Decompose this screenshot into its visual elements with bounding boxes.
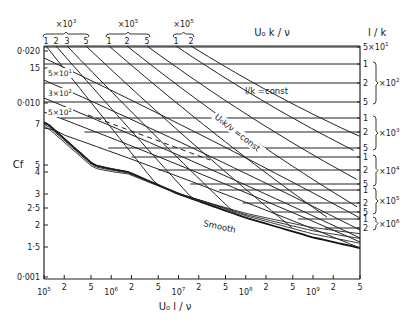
top-axis-label: 1 xyxy=(106,37,111,46)
x-tick-label: 5 xyxy=(88,283,93,292)
right-axis-label: 2 xyxy=(363,79,368,88)
top-axis-title: U₀ k / ν xyxy=(254,27,290,38)
x-tick-label: 107 xyxy=(172,286,186,297)
right-multiplier: ×102 xyxy=(379,77,399,88)
right-axis-label: 5 xyxy=(363,98,368,107)
x-tick-label: 5 xyxy=(156,283,161,292)
y-tick-label: 0·001 xyxy=(17,273,40,282)
u0k-const-curve xyxy=(127,46,357,207)
top-multiplier: ×105 xyxy=(118,18,139,29)
right-axis-title: l / k xyxy=(368,27,387,38)
top-multiplier: ×105 xyxy=(173,18,194,29)
transition-curve xyxy=(44,126,360,233)
top-axis-label: 2 xyxy=(124,37,129,46)
right-axis-label: 1 xyxy=(363,114,368,123)
transition-curve xyxy=(44,122,360,243)
x-tick-label: 2 xyxy=(62,283,67,292)
u0k-const-curve xyxy=(44,128,360,248)
right-bracket xyxy=(373,188,378,214)
y-tick-label: 0·020 xyxy=(17,47,40,56)
u0k-const-curve xyxy=(176,46,354,151)
x-tick-label: 2 xyxy=(331,283,336,292)
y-tick-label: 2 xyxy=(35,221,40,230)
right-bracket xyxy=(373,62,378,104)
u0k-const-curve xyxy=(147,46,357,179)
right-axis-label: 1 xyxy=(363,186,368,195)
right-multiplier: ×103 xyxy=(379,127,400,138)
right-axis-label: 5 xyxy=(363,144,368,153)
top-axis-label: 2 xyxy=(53,37,58,46)
top-axis-label: 3 xyxy=(64,37,69,46)
right-axis-label: 5×101 xyxy=(363,41,389,52)
right-multiplier: ×105 xyxy=(379,195,400,206)
top-axis-label: 5 xyxy=(83,37,88,46)
x-axis-title: U₀ l / ν xyxy=(159,301,192,312)
u0k-const-curve xyxy=(86,46,292,228)
right-axis-label: 2 xyxy=(363,224,368,233)
skin-friction-chart: 10525106251072510825109250·020150·010754… xyxy=(0,0,406,325)
annotation-smooth-group: Smooth xyxy=(203,218,237,235)
y-tick-label: 2·5 xyxy=(27,204,40,213)
x-tick-label: 108 xyxy=(239,286,253,297)
x-tick-label: 5 xyxy=(290,283,295,292)
annotation-smooth: Smooth xyxy=(203,218,237,235)
y-tick-label: 1·5 xyxy=(27,243,40,252)
top-axis-label: 2 xyxy=(188,37,193,46)
right-axis-label: 1 xyxy=(363,60,368,69)
right-bracket xyxy=(373,217,378,230)
x-tick-label: 109 xyxy=(306,286,320,297)
inset-label: 5×102 xyxy=(48,107,72,117)
x-tick-label: 2 xyxy=(129,283,134,292)
y-tick-label: 7 xyxy=(35,120,40,129)
right-multiplier: ×106 xyxy=(379,218,400,229)
plot-area xyxy=(44,46,360,248)
right-axis-label: 1 xyxy=(363,215,368,224)
top-axis-label: 5 xyxy=(144,37,149,46)
x-tick-label: 2 xyxy=(263,283,268,292)
right-axis-label: 2 xyxy=(363,166,368,175)
top-multiplier: ×103 xyxy=(56,18,77,29)
x-tick-label: 5 xyxy=(357,283,362,292)
right-axis-label: 2 xyxy=(363,199,368,208)
x-tick-label: 2 xyxy=(196,283,201,292)
inset-label: 3×102 xyxy=(48,88,72,98)
annotation-u0k-group: U₀k/ν =const xyxy=(211,110,266,156)
right-bracket xyxy=(373,155,378,186)
y-tick-label: 3 xyxy=(35,190,40,199)
y-tick-label: 0·010 xyxy=(17,99,40,108)
u0k-const-curve xyxy=(44,98,360,238)
y-axis-title: Cf xyxy=(13,159,24,170)
x-tick-label: 106 xyxy=(104,286,118,297)
y-tick-label: 4 xyxy=(35,168,40,177)
right-axis-label: 1 xyxy=(363,153,368,162)
right-multiplier: ×104 xyxy=(379,165,400,176)
u0k-const-curve xyxy=(44,58,360,218)
right-bracket xyxy=(373,116,378,150)
top-axis-label: 1 xyxy=(43,37,48,46)
annotation-lk-const: l/k =const xyxy=(245,86,289,96)
y-tick-label: 15 xyxy=(30,64,40,73)
x-tick-label: 5 xyxy=(223,283,228,292)
top-axis-label: 1 xyxy=(173,37,178,46)
inset-label: 5×101 xyxy=(48,68,72,78)
x-tick-label: 105 xyxy=(37,286,51,297)
right-axis-label: 2 xyxy=(363,128,368,137)
